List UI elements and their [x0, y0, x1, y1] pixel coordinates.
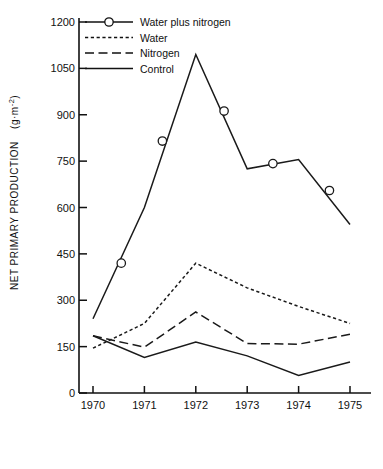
legend-label: Nitrogen	[140, 47, 180, 59]
y-axis-units-sup: -2	[7, 99, 16, 107]
y-tick-label: 1050	[51, 62, 75, 74]
x-tick-label: 1974	[286, 399, 310, 411]
x-tick-label: 1975	[338, 399, 362, 411]
y-tick-label: 1200	[51, 16, 75, 28]
y-tick-label: 600	[57, 202, 75, 214]
legend-label: Control	[140, 63, 174, 75]
y-axis-title-text: NET PRIMARY PRODUCTION	[9, 141, 20, 290]
data-point-marker	[158, 137, 166, 145]
legend-swatch-marker	[105, 18, 113, 26]
legend-label: Water plus nitrogen	[140, 16, 231, 28]
y-tick-label: 0	[69, 387, 75, 399]
svg-text:NET PRIMARY PRODUCTION (: NET PRIMARY PRODUCTION (g·m-2)	[7, 95, 20, 290]
y-tick-label: 750	[57, 155, 75, 167]
x-tick-label: 1973	[235, 399, 259, 411]
y-axis-units-post: )	[9, 95, 20, 99]
legend-label: Water	[140, 32, 168, 44]
legend-item: Water plus nitrogen	[85, 16, 231, 28]
y-axis-title: NET PRIMARY PRODUCTION (g·m-2)	[7, 95, 20, 290]
data-point-marker	[220, 107, 228, 115]
y-tick-label: 300	[57, 294, 75, 306]
data-point-marker	[269, 159, 277, 167]
y-tick-label: 150	[57, 341, 75, 353]
data-point-marker	[325, 186, 333, 194]
net-primary-production-line-chart: 015030045060075090010501200 197019711972…	[0, 0, 383, 469]
x-tick-label: 1972	[184, 399, 208, 411]
x-tick-label: 1971	[132, 399, 156, 411]
y-tick-label: 900	[57, 109, 75, 121]
y-tick-label: 450	[57, 248, 75, 260]
y-axis-units-pre: (g·m	[9, 106, 20, 129]
data-point-marker	[117, 259, 125, 267]
x-tick-label: 1970	[81, 399, 105, 411]
